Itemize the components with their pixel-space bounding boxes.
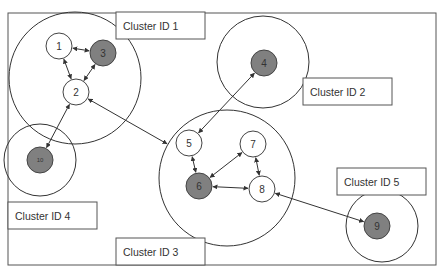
node-5: 5 — [176, 130, 202, 156]
node-3: 3 — [90, 40, 116, 66]
node-label: 1 — [56, 41, 62, 52]
cluster-label: Cluster ID 3 — [123, 246, 179, 258]
node-7: 7 — [240, 131, 266, 157]
node-8: 8 — [249, 176, 275, 202]
node-label: 8 — [259, 184, 265, 195]
node-label: 10 — [37, 157, 44, 163]
cluster-label: Cluster ID 5 — [344, 176, 400, 188]
node-label: 5 — [186, 138, 192, 149]
node-label: 7 — [250, 139, 256, 150]
cluster-label: Cluster ID 2 — [310, 86, 366, 98]
node-label: 6 — [196, 181, 202, 192]
node-label: 2 — [73, 87, 79, 98]
node-label: 3 — [100, 48, 106, 59]
node-label: 9 — [374, 221, 380, 232]
cluster-label: Cluster ID 4 — [15, 210, 71, 222]
node-1: 1 — [46, 33, 72, 59]
node-6: 6 — [186, 173, 212, 199]
node-2: 2 — [63, 79, 89, 105]
cluster-diagram: 12345678910 Cluster ID 1Cluster ID 2Clus… — [0, 0, 441, 274]
node-label: 4 — [261, 58, 267, 69]
cluster-label: Cluster ID 1 — [123, 20, 179, 32]
node-4: 4 — [251, 50, 277, 76]
node-10: 10 — [27, 147, 53, 173]
node-9: 9 — [364, 213, 390, 239]
